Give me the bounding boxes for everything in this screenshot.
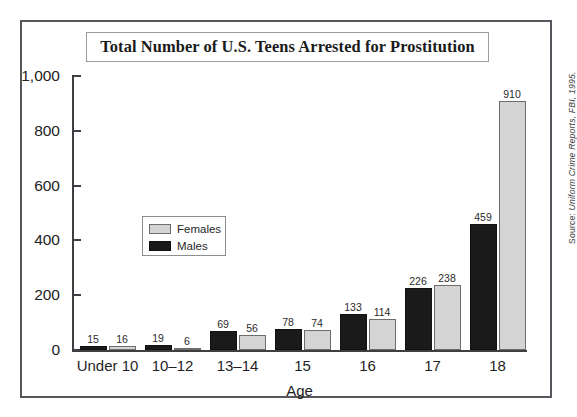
plot-area: 02004006008001,000 1516Under 1019610–126… <box>72 76 527 350</box>
bar-males-under-10[interactable]: 15 <box>80 346 107 350</box>
x-axis-category-label: 13–14 <box>217 357 259 374</box>
bar-value-label: 15 <box>87 333 99 345</box>
bar-value-label: 69 <box>217 318 229 330</box>
bar-females-16[interactable]: 114 <box>369 319 396 350</box>
bar-value-label: 74 <box>311 317 323 329</box>
y-axis-tick-label: 0 <box>51 341 60 359</box>
bar-value-label: 459 <box>474 211 492 223</box>
bar-value-label: 226 <box>409 275 427 287</box>
x-axis-category-label: 17 <box>424 357 441 374</box>
bar-value-label: 114 <box>374 306 391 318</box>
y-axis-tick-label: 800 <box>34 122 60 140</box>
bar-females-under-10[interactable]: 16 <box>109 346 136 350</box>
source-note: Source: Uniform Crime Reports, FBI, 1995… <box>567 71 577 244</box>
bar-value-label: 6 <box>184 335 190 347</box>
bar-males-16[interactable]: 133 <box>340 314 367 350</box>
bar-males-10-12[interactable]: 19 <box>145 345 172 350</box>
bar-males-13-14[interactable]: 69 <box>210 331 237 350</box>
bar-group: 695613–14 <box>210 76 266 350</box>
legend-label: Males <box>177 240 208 252</box>
bar-group: 787415 <box>275 76 331 350</box>
bar-females-18[interactable]: 910 <box>499 101 526 350</box>
bar-group: 45991018 <box>470 76 526 350</box>
x-axis-line <box>72 350 527 352</box>
chart-legend: FemalesMales <box>142 216 226 256</box>
x-axis-category-label: 10–12 <box>152 357 194 374</box>
y-axis-line <box>72 76 74 351</box>
chart-title: Total Number of U.S. Teens Arrested for … <box>100 37 474 57</box>
x-axis-category-label: Under 10 <box>77 357 139 374</box>
legend-item-males[interactable]: Males <box>149 239 225 253</box>
bar-value-label: 56 <box>246 322 258 334</box>
bar-group: 19610–12 <box>145 76 201 350</box>
bar-females-13-14[interactable]: 56 <box>239 335 266 350</box>
chart-figure-frame: Total Number of U.S. Teens Arrested for … <box>20 20 552 398</box>
bar-males-17[interactable]: 226 <box>405 288 432 350</box>
y-axis-tick-label: 600 <box>34 177 60 195</box>
y-axis-tick-label: 400 <box>34 231 60 249</box>
legend-item-females[interactable]: Females <box>149 222 225 236</box>
source-note-text: Uniform Crime Reports, FBI, 1995. <box>567 71 577 212</box>
bar-females-15[interactable]: 74 <box>304 330 331 350</box>
bar-group: 13311416 <box>340 76 396 350</box>
legend-label: Females <box>177 223 221 235</box>
x-axis-category-label: 18 <box>489 357 506 374</box>
x-axis-title: Age <box>72 382 527 399</box>
bar-males-18[interactable]: 459 <box>470 224 497 350</box>
bar-group: 22623817 <box>405 76 461 350</box>
source-note-lead: Source: <box>567 213 577 244</box>
y-axis-tick-label: 200 <box>34 286 60 304</box>
legend-swatch-females <box>149 224 171 234</box>
legend-swatch-males <box>149 241 171 251</box>
bar-value-label: 910 <box>503 88 521 100</box>
bar-value-label: 238 <box>438 272 456 284</box>
x-axis-category-label: 15 <box>294 357 311 374</box>
x-axis-category-label: 16 <box>359 357 376 374</box>
bar-value-label: 133 <box>344 301 362 313</box>
chart-title-box: Total Number of U.S. Teens Arrested for … <box>86 32 489 62</box>
bar-value-label: 19 <box>152 332 164 344</box>
y-axis-tick-label: 1,000 <box>21 67 60 85</box>
bar-females-10-12[interactable]: 6 <box>174 348 201 350</box>
bar-females-17[interactable]: 238 <box>434 285 461 350</box>
bar-males-15[interactable]: 78 <box>275 329 302 350</box>
bar-value-label: 16 <box>116 333 128 345</box>
bar-group: 1516Under 10 <box>80 76 136 350</box>
bar-value-label: 78 <box>282 316 294 328</box>
